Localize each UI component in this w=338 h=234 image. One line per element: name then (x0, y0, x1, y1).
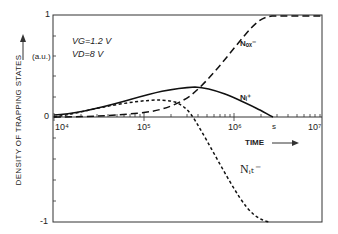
x-tick-label-1e7: 10⁷ (308, 122, 321, 132)
x-tick-label-1e5: 10⁵ (137, 122, 151, 132)
annotation-vd: VD=8 V (72, 49, 103, 59)
x-tick-label-1e6: 10⁶ (228, 122, 242, 132)
y-unit-label: (a.u.) (32, 52, 51, 61)
label-nit-minus: Nᵢₜ⁻ (240, 162, 261, 177)
annotation-vg: VG=1.2 V (72, 36, 111, 46)
x-axis-label: TIME (245, 138, 264, 147)
x-tick-label-1e4: 10⁴ (55, 122, 69, 132)
series-nit-plus (54, 87, 273, 117)
chart-canvas (0, 0, 338, 234)
y-axis-label: DENSITY OF TRAPPING STATES (14, 55, 23, 186)
series-nox-minus (54, 16, 322, 117)
label-nit-plus: Nᵢ⁺ (240, 93, 251, 102)
x-unit-label: s (272, 122, 276, 131)
series-nit-minus (54, 100, 270, 222)
y-tick-label-minus1: -1 (40, 216, 48, 226)
label-nox-minus: Nₒₓ⁻ (240, 39, 256, 48)
y-tick-label-1: 1 (45, 9, 50, 19)
y-tick-label-0: 0 (44, 111, 49, 121)
x-axis-arrow-icon (272, 140, 299, 146)
plot-frame (53, 15, 322, 222)
